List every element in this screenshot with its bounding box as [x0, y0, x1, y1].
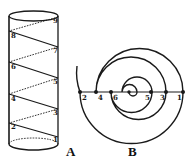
cylinder-label-4: 4	[11, 94, 16, 103]
cylinder-label-7: 7	[53, 46, 58, 55]
spiral-point-1	[182, 91, 185, 94]
helix-back-7-6	[9, 47, 58, 62]
helix-front-8-7	[9, 31, 58, 47]
spiral-point-3	[165, 91, 168, 94]
spiral-point-labels: 2 4 6 5 3 1	[82, 93, 182, 102]
cylinder-point-labels: 9 8 7 6 5 4 3 2 1	[11, 16, 58, 144]
spiral-label-2: 2	[82, 93, 87, 102]
spiral-label-5: 5	[145, 93, 150, 102]
spiral-label-3: 3	[160, 93, 165, 102]
spiral-label-1: 1	[177, 93, 182, 102]
spiral-point-6	[110, 91, 113, 94]
spiral-label-4: 4	[98, 93, 103, 102]
cylinder-label-3: 3	[53, 108, 58, 117]
helix-back-3-2	[9, 109, 58, 123]
cylinder-label-8: 8	[11, 31, 16, 40]
spiral-point-5	[150, 91, 153, 94]
spiral-point-4	[95, 91, 98, 94]
helix-front-2-1	[9, 123, 58, 137]
spiral-label-6: 6	[113, 93, 118, 102]
cylinder-label-2: 2	[11, 122, 16, 131]
cylinder-label-6: 6	[11, 62, 16, 71]
panel-a-label: A	[66, 144, 76, 159]
helix-front-4-3	[9, 94, 58, 109]
cylinder-bottom-front-arc	[9, 144, 58, 150]
helix-back-5-4	[9, 78, 58, 94]
cylinder-label-1: 1	[53, 135, 58, 144]
cylinder-diagram	[9, 11, 58, 150]
cylinder-top-ellipse	[9, 11, 58, 21]
spiral-curve	[77, 49, 183, 144]
spiral-diagram	[77, 49, 185, 144]
spiral-point-2	[79, 91, 82, 94]
helix-front-6-5	[9, 62, 58, 78]
cylinder-label-9: 9	[53, 16, 58, 25]
cylinder-bottom-back-arc	[9, 138, 58, 144]
panel-b-label: B	[128, 144, 137, 159]
cylinder-label-5: 5	[53, 77, 58, 86]
spiral-center-dot	[128, 91, 130, 93]
spiral-helix-figure: 9 8 7 6 5 4 3 2 1 A 2 4 6 5 3 1 B	[0, 0, 195, 167]
